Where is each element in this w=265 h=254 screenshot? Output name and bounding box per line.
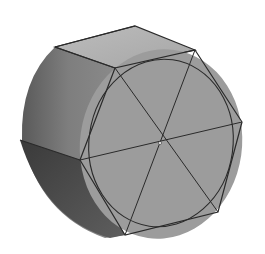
- cylinder-hexagon-diagram: [0, 0, 265, 254]
- center-point: [159, 142, 162, 145]
